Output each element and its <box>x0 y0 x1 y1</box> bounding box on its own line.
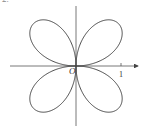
rose-curve-diagram: 2. O 1 <box>0 0 151 133</box>
x-tick-label: 1 <box>119 70 123 79</box>
figure-number: 2. <box>2 0 9 4</box>
origin-label: O <box>69 66 76 76</box>
